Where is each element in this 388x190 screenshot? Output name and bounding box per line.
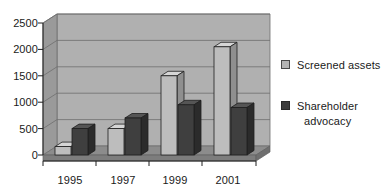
plot-side-wall — [43, 14, 57, 155]
legend-label-shareholder-advocacy-line2: advocacy — [304, 114, 388, 129]
y-tick-2000: 2000 — [2, 44, 38, 55]
x-axis-ticks — [43, 161, 256, 166]
y-axis-ticks — [38, 23, 43, 155]
y-tick-500: 500 — [2, 123, 38, 134]
legend-label-shareholder-advocacy-line1: Shareholder — [297, 99, 388, 114]
chart-legend: Screened assets Shareholder advocacy — [281, 58, 388, 155]
bar-2001-shareholder-advocacy — [231, 103, 254, 155]
x-tick-1995: 1995 — [47, 174, 93, 186]
x-tick-1997: 1997 — [100, 174, 146, 186]
plot-floor-front-edge — [43, 155, 256, 161]
bar-chart: 2500 2000 1500 1000 500 0 1995 1997 1999… — [0, 0, 388, 190]
legend-entry-screened-assets: Screened assets — [281, 58, 388, 73]
y-tick-0: 0 — [2, 150, 38, 161]
y-tick-2500: 2500 — [2, 18, 38, 29]
legend-label-screened-assets: Screened assets — [297, 58, 388, 73]
y-axis-labels: 2500 2000 1500 1000 500 0 — [0, 0, 38, 190]
bar-1999-shareholder-advocacy — [178, 100, 201, 155]
legend-swatch-shareholder-advocacy — [281, 101, 290, 110]
x-tick-1999: 1999 — [152, 174, 198, 186]
y-tick-1500: 1500 — [2, 70, 38, 81]
y-tick-1000: 1000 — [2, 97, 38, 108]
legend-swatch-screened-assets — [281, 60, 290, 69]
bar-1995-shareholder-advocacy — [72, 124, 95, 155]
bar-1997-shareholder-advocacy — [125, 114, 148, 156]
x-tick-2001: 2001 — [205, 174, 251, 186]
legend-entry-shareholder-advocacy: Shareholder advocacy — [281, 99, 388, 129]
